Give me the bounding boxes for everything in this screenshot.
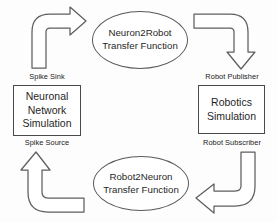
node-line: Robotics <box>211 96 252 110</box>
node-neuronal-network-simulation[interactable]: Neuronal Network Simulation <box>13 85 81 136</box>
edge-label-robot-publisher: Robot Publisher <box>191 72 273 81</box>
node-line: Network <box>28 104 67 118</box>
node-line: Simulation <box>207 110 256 124</box>
node-robotics-simulation[interactable]: Robotics Simulation <box>198 85 265 134</box>
edge-label-spike-source: Spike Source <box>11 138 83 147</box>
node-line: Neuron2Robot <box>108 27 171 40</box>
arrow-robot-subscriber <box>192 150 258 214</box>
node-line: Robot2Neuron <box>109 171 172 184</box>
edge-label-robot-subscriber: Robot Subscriber <box>189 138 275 147</box>
node-line: Neuronal <box>26 90 69 104</box>
node-neuron2robot-transfer-function[interactable]: Neuron2Robot Transfer Function <box>92 11 188 69</box>
diagram-canvas: Neuron2Robot Transfer Function Robot2Neu… <box>0 0 277 222</box>
arrow-spike-sink <box>24 6 88 68</box>
node-robot2neuron-transfer-function[interactable]: Robot2Neuron Transfer Function <box>93 156 189 211</box>
node-line: Transfer Function <box>103 184 179 197</box>
node-line: Transfer Function <box>102 40 178 53</box>
node-line: Simulation <box>22 117 71 131</box>
edge-label-spike-sink: Spike Sink <box>13 72 81 81</box>
arrow-robot-publisher <box>192 6 258 70</box>
arrow-spike-source <box>20 150 86 214</box>
